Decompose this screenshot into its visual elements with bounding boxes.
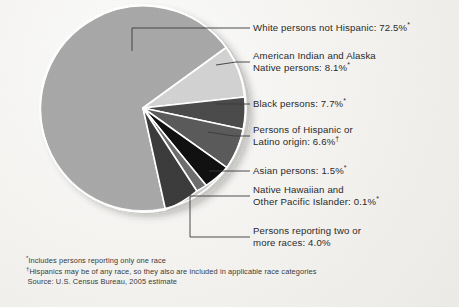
- callout-two-or-more-races[interactable]: Persons reporting two or more races: 4.0…: [253, 225, 361, 249]
- callout-text-line2: Native persons: 8.1%: [253, 62, 347, 73]
- callout-text-line1: White persons not Hispanic: 72.5%: [253, 22, 407, 33]
- callout-hispanic-latino-origin[interactable]: Persons of Hispanic or Latino origin: 6.…: [253, 124, 353, 148]
- footnote-mark: *: [347, 61, 350, 68]
- footnote-source-text: Source: U.S. Census Bureau, 2005 estimat…: [28, 277, 178, 286]
- callout-native-hawaiian-pacific-islander[interactable]: Native Hawaiian and Other Pacific Island…: [253, 184, 379, 208]
- callout-text-line1: Persons reporting two or: [253, 225, 361, 236]
- footnote-mark: *: [376, 195, 379, 202]
- footnote-mark: *: [344, 164, 347, 171]
- footnote-one: *Includes persons reporting only one rac…: [26, 256, 316, 267]
- callout-text-line1: Native Hawaiian and: [253, 184, 344, 195]
- callout-text-line1: Asian persons: 1.5%: [253, 165, 344, 176]
- footnote-mark: *: [407, 21, 410, 28]
- footnote-two: †Hispanics may be of any race, so they a…: [26, 267, 316, 278]
- footnote-mark: †: [335, 135, 339, 142]
- callout-asian-persons[interactable]: Asian persons: 1.5%*: [253, 165, 347, 177]
- footnote-source: Source: U.S. Census Bureau, 2005 estimat…: [26, 277, 316, 288]
- leader-line-two-or-more-races: [190, 196, 250, 237]
- callout-american-indian-alaska-native[interactable]: American Indian and Alaska Native person…: [253, 50, 376, 74]
- footnote-mark: *: [343, 97, 346, 104]
- callout-text-line1: Persons of Hispanic or: [253, 124, 353, 135]
- chart-canvas: White persons not Hispanic: 72.5%* Ameri…: [0, 0, 459, 307]
- callout-text-line2: more races: 4.0%: [253, 237, 331, 248]
- callout-white-not-hispanic[interactable]: White persons not Hispanic: 72.5%*: [253, 22, 410, 34]
- callout-black-persons[interactable]: Black persons: 7.7%*: [253, 98, 346, 110]
- footnote-one-text: Includes persons reporting only one race: [28, 256, 166, 265]
- callout-text-line1: Black persons: 7.7%: [253, 98, 343, 109]
- footnote-two-text: Hispanics may be of any race, so they al…: [29, 267, 316, 276]
- callout-text-line2: Other Pacific Islander: 0.1%: [253, 196, 376, 207]
- footnotes-block: *Includes persons reporting only one rac…: [26, 256, 316, 288]
- callout-text-line2: Latino origin: 6.6%: [253, 136, 335, 147]
- callout-text-line1: American Indian and Alaska: [253, 50, 376, 61]
